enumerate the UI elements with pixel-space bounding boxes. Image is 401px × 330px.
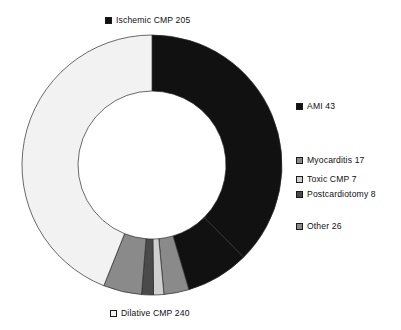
legend-entry-myocarditis[interactable]: Myocarditis 17 — [296, 155, 365, 165]
legend-entry-ami[interactable]: AMI 43 — [296, 101, 335, 111]
legend-entry-ischemic-cmp[interactable]: Ischemic CMP 205 — [105, 15, 190, 25]
donut-chart-svg — [0, 0, 401, 330]
legend-entry-toxic-cmp[interactable]: Toxic CMP 7 — [296, 174, 357, 184]
legend-swatch-postcardiotomy — [296, 191, 303, 198]
legend-entry-other[interactable]: Other 26 — [296, 221, 342, 231]
legend-label-postcardiotomy: Postcardiotomy 8 — [307, 189, 376, 199]
legend-label-other: Other 26 — [307, 221, 342, 231]
legend-entry-postcardiotomy[interactable]: Postcardiotomy 8 — [296, 189, 376, 199]
legend-swatch-ami — [296, 103, 303, 110]
legend-label-ami: AMI 43 — [307, 101, 335, 111]
legend-entry-dilative-cmp[interactable]: Dilative CMP 240 — [110, 308, 190, 318]
legend-swatch-toxic-cmp — [296, 176, 303, 183]
donut-chart-figure: Ischemic CMP 205 AMI 43 Myocarditis 17 T… — [0, 0, 401, 330]
donut-slices-group — [22, 35, 282, 295]
legend-swatch-ischemic-cmp — [105, 17, 112, 24]
legend-swatch-other — [296, 223, 303, 230]
legend-swatch-dilative-cmp — [110, 310, 117, 317]
legend-label-toxic-cmp: Toxic CMP 7 — [307, 174, 357, 184]
legend-label-ischemic-cmp: Ischemic CMP 205 — [116, 15, 190, 25]
legend-label-myocarditis: Myocarditis 17 — [307, 155, 365, 165]
donut-slice-ischemic-cmp[interactable] — [152, 35, 282, 257]
legend-label-dilative-cmp: Dilative CMP 240 — [121, 308, 190, 318]
legend-swatch-myocarditis — [296, 157, 303, 164]
